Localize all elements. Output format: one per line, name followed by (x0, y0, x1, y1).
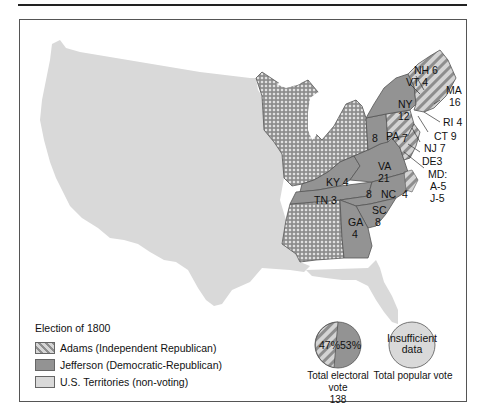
legend-label-jefferson: Jefferson (Democratic-Republican) (60, 359, 222, 371)
electoral-caption: Total electoral vote 138 (298, 370, 378, 406)
label-de: DE3 (422, 155, 443, 167)
adams-swatch (35, 342, 55, 354)
label-ma: MA (446, 84, 462, 96)
label-ga: GA (348, 216, 363, 228)
jefferson-swatch (35, 359, 55, 371)
label-nc-jefferson: 8 (366, 188, 372, 200)
label-nj: NJ 7 (424, 142, 446, 154)
electoral-jefferson-pct: 53% (340, 339, 361, 351)
label-sc-votes: 8 (375, 216, 381, 228)
electoral-adams-pct: 47% (319, 339, 340, 351)
popular-text-2: data (402, 343, 423, 355)
legend-title: Election of 1800 (35, 322, 222, 334)
electoral-total: 138 (298, 394, 378, 406)
label-sc: SC (372, 204, 387, 216)
label-pa-adams: 7 (402, 132, 408, 144)
label-va: VA (378, 160, 391, 172)
label-ny-votes: 12 (398, 110, 410, 122)
label-ct: CT 9 (434, 130, 457, 142)
lake-michigan (308, 92, 324, 140)
legend-item-jefferson: Jefferson (Democratic-Republican) (35, 356, 222, 373)
label-pa: PA (386, 130, 399, 142)
label-nc-adams: 4 (402, 188, 408, 200)
label-md-adams: A-5 (430, 180, 447, 192)
popular-caption: Total popular vote (372, 370, 454, 382)
label-pa-jefferson: 8 (372, 132, 378, 144)
label-vt: VT 4 (406, 76, 428, 88)
label-ky: KY 4 (326, 176, 349, 188)
label-va-votes: 21 (378, 172, 390, 184)
territories-swatch (35, 376, 55, 388)
label-ny: NY (398, 98, 413, 110)
label-ma-votes: 16 (449, 96, 461, 108)
label-ga-votes: 4 (352, 228, 358, 240)
legend: Election of 1800 Adams (Independent Repu… (35, 322, 222, 390)
label-nc: NC (381, 188, 397, 200)
label-md-jefferson: J-5 (430, 192, 445, 204)
electoral-vote-pie: 47% 53% (315, 322, 361, 368)
legend-label-territories: U.S. Territories (non-voting) (60, 376, 188, 388)
label-tn: TN 3 (314, 194, 337, 206)
electoral-caption-text: Total electoral vote (298, 370, 378, 394)
legend-item-territories: U.S. Territories (non-voting) (35, 373, 222, 390)
legend-label-adams: Adams (Independent Republican) (60, 342, 216, 354)
label-md: MD: (428, 168, 447, 180)
legend-item-adams: Adams (Independent Republican) (35, 339, 222, 356)
popular-vote-pie: Insufficient data (387, 322, 437, 368)
popular-caption-text: Total popular vote (372, 370, 454, 382)
florida-territory (306, 260, 398, 324)
label-nh: NH 6 (414, 64, 438, 76)
label-ri: RI 4 (443, 116, 462, 128)
